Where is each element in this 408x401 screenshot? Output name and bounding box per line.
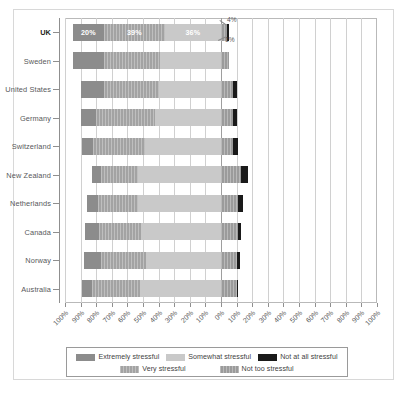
hatch-overlay — [221, 81, 233, 98]
bar-row[interactable] — [65, 280, 377, 297]
hatch-overlay — [221, 52, 229, 69]
bar-row[interactable] — [65, 138, 377, 155]
bar-segment[interactable] — [160, 52, 221, 69]
bar-segment[interactable] — [233, 109, 236, 126]
bar-segment[interactable] — [81, 81, 104, 98]
callout-label: 1% — [225, 36, 235, 43]
bar-segment[interactable] — [104, 81, 159, 98]
bar-segment[interactable] — [238, 195, 243, 212]
x-axis-tick — [65, 303, 66, 307]
bar-segment[interactable] — [159, 81, 221, 98]
bar-segment[interactable] — [221, 109, 233, 126]
bar-segment[interactable] — [98, 195, 139, 212]
bar-segment[interactable] — [221, 195, 238, 212]
chart-page: UKSwedenUnited StatesGermanySwitzerlandN… — [0, 0, 408, 401]
bar-segment[interactable] — [221, 252, 237, 269]
bar-row[interactable] — [65, 195, 377, 212]
bar-segment[interactable] — [82, 138, 93, 155]
x-axis-tick — [221, 303, 222, 307]
bar-segment[interactable] — [221, 280, 237, 297]
bar-segment[interactable] — [221, 52, 229, 69]
legend-swatch — [258, 354, 277, 361]
bar-segment[interactable] — [138, 166, 221, 183]
bar-segment[interactable] — [104, 52, 160, 69]
hatch-overlay — [92, 280, 140, 297]
bar-value-label: 20% — [81, 28, 96, 37]
bar-segment[interactable] — [73, 52, 104, 69]
y-axis-tick — [53, 175, 59, 176]
legend-row-primary: Extremely stressfulSomewhat stressfulNot… — [72, 351, 342, 363]
x-axis-tick — [112, 303, 113, 307]
bar-segment[interactable]: 36% — [165, 24, 221, 41]
hatch-overlay — [101, 166, 138, 183]
bar-row[interactable] — [65, 252, 377, 269]
x-axis-tick — [237, 303, 238, 307]
bar-segment[interactable] — [92, 166, 101, 183]
bar-segment[interactable] — [237, 252, 240, 269]
legend-swatch — [166, 354, 185, 361]
legend-swatch — [76, 354, 95, 361]
x-axis-tick — [205, 303, 206, 307]
legend-item[interactable]: Not too stressful — [220, 365, 294, 373]
legend-item[interactable]: Extremely stressful — [76, 353, 159, 361]
bar-segment[interactable] — [233, 138, 238, 155]
hatch-overlay — [221, 138, 233, 155]
hatch-overlay — [221, 223, 238, 240]
legend-swatch — [120, 366, 139, 373]
bar-segment[interactable] — [138, 195, 221, 212]
bar-segment[interactable] — [146, 252, 221, 269]
bar-segment[interactable] — [237, 280, 239, 297]
bar-segment[interactable] — [233, 81, 236, 98]
bar-segment[interactable] — [155, 109, 221, 126]
y-axis-category-label: Norway — [0, 256, 51, 265]
bar-row[interactable] — [65, 109, 377, 126]
bar-segment[interactable] — [221, 138, 233, 155]
legend-label: Extremely stressful — [98, 353, 159, 361]
bar-segment[interactable]: 39% — [104, 24, 165, 41]
bar-segment[interactable] — [140, 280, 221, 297]
bar-segment[interactable]: 20% — [73, 24, 104, 41]
x-axis-tick — [299, 303, 300, 307]
x-axis-tick — [346, 303, 347, 307]
y-axis-tick — [53, 118, 59, 119]
x-axis-tick — [268, 303, 269, 307]
hatch-overlay — [221, 252, 237, 269]
bar-segment[interactable] — [101, 252, 146, 269]
bar-segment[interactable] — [145, 138, 221, 155]
bar-row[interactable] — [65, 166, 377, 183]
bar-segment[interactable] — [84, 252, 101, 269]
bar-segment[interactable] — [92, 280, 140, 297]
legend-item[interactable]: Not at all stressful — [258, 353, 337, 361]
bar-segment[interactable] — [221, 166, 241, 183]
bar-segment[interactable] — [93, 138, 144, 155]
hatch-overlay — [221, 280, 237, 297]
bar-segment[interactable] — [241, 166, 247, 183]
bar-segment[interactable] — [221, 81, 233, 98]
bar-row[interactable] — [65, 52, 377, 69]
bar-segment[interactable] — [82, 280, 91, 297]
y-axis-tick — [53, 260, 59, 261]
legend-item[interactable]: Very stressful — [120, 365, 185, 373]
bar-segment[interactable] — [141, 223, 221, 240]
bar-segment[interactable] — [85, 223, 99, 240]
bar-segment[interactable] — [81, 109, 97, 126]
hatch-overlay — [93, 138, 144, 155]
legend-item[interactable]: Somewhat stressful — [166, 353, 251, 361]
bar-segment[interactable] — [87, 195, 98, 212]
x-axis-tick — [330, 303, 331, 307]
hatch-overlay — [96, 109, 155, 126]
bar-segment[interactable] — [238, 223, 241, 240]
bar-segment[interactable] — [221, 223, 238, 240]
bar-segment[interactable] — [96, 109, 155, 126]
y-axis-tick — [53, 89, 59, 90]
bar-segment[interactable] — [101, 166, 138, 183]
bar-row[interactable] — [65, 223, 377, 240]
bar-segment[interactable] — [99, 223, 141, 240]
legend-label: Somewhat stressful — [188, 353, 251, 361]
bar-row[interactable] — [65, 81, 377, 98]
y-axis-category-label: UK — [0, 28, 51, 37]
y-axis-category-label: New Zealand — [0, 170, 51, 179]
x-axis-tick — [159, 303, 160, 307]
y-axis-category-label: United States — [0, 85, 51, 94]
legend: Extremely stressfulSomewhat stressfulNot… — [66, 347, 348, 377]
